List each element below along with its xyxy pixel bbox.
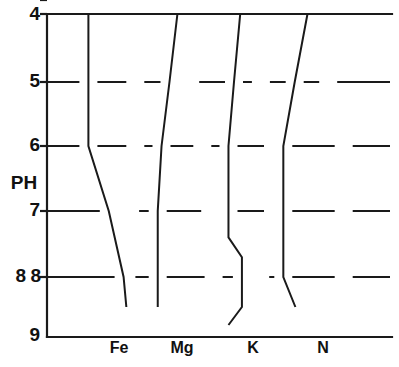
- y-tick-label-5: 5: [29, 70, 40, 91]
- y-axis-title: PH: [11, 172, 37, 193]
- x-tick-label-k: K: [247, 339, 259, 356]
- axis-frame: [47, 14, 392, 337]
- y-tick-label-7: 7: [29, 199, 40, 220]
- chart-canvas: 4 5 6 7 8 8 9 PH Fe Mg K N: [0, 0, 399, 367]
- x-tick-label-fe: Fe: [110, 339, 129, 356]
- y-tick-label-9: 9: [29, 324, 40, 345]
- x-tick-label-mg: Mg: [170, 339, 193, 356]
- y-tick-label-8: 8: [30, 265, 41, 286]
- nutrient-band-fe: [88, 14, 126, 307]
- nutrient-band-n: [283, 14, 307, 307]
- nutrient-band-k: [228, 14, 241, 325]
- nutrient-band-group: [88, 14, 307, 325]
- y-tick-label-8-duplicate: 8: [15, 265, 26, 286]
- ph-nutrient-availability-chart: 4 5 6 7 8 8 9 PH Fe Mg K N: [0, 0, 399, 367]
- x-tick-label-n: N: [317, 339, 329, 356]
- y-tick-label-4: 4: [29, 3, 40, 24]
- nutrient-band-mg: [158, 14, 178, 307]
- y-tick-label-6: 6: [29, 134, 40, 155]
